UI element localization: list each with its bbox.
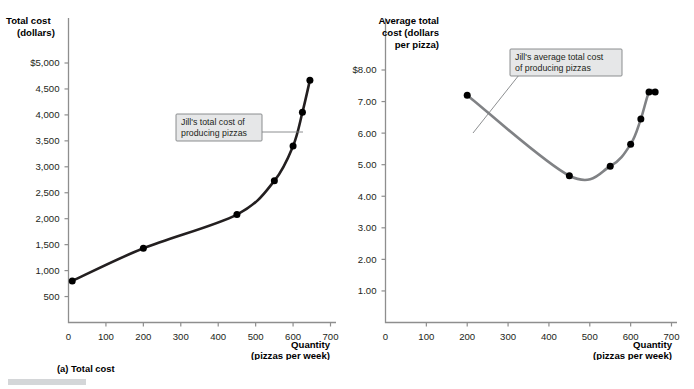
y-tick-label: 3,000	[35, 161, 59, 172]
x-axis-title-line-1-b: Quantity	[633, 339, 673, 350]
chart-average-total-cost: 1.002.003.004.005.006.007.00$8.00 010020…	[347, 0, 694, 360]
x-tick-label: 200	[135, 331, 151, 342]
x-axis-title-line-2-a: (pizzas per week)	[251, 350, 330, 360]
average-total-cost-curve	[467, 90, 655, 180]
data-point	[69, 277, 76, 284]
y-tick-label: 7.00	[358, 96, 377, 107]
y-tick-label: 2,500	[35, 187, 59, 198]
x-tick-label: 0	[66, 331, 71, 342]
y-axis-title-line-1-b: Average total	[379, 15, 439, 26]
average-total-cost-datapoints	[464, 89, 659, 180]
x-tick-label: 500	[248, 331, 264, 342]
panel-caption-a: (a) Total cost	[57, 363, 115, 374]
data-point	[464, 92, 471, 99]
y-tick-label: 4,500	[35, 83, 59, 94]
x-tick-label: 100	[98, 331, 114, 342]
x-tick-label: 0	[383, 331, 388, 342]
data-point	[271, 177, 278, 184]
y-tick-label: 500	[43, 291, 59, 302]
x-tick-label: 400	[541, 331, 557, 342]
callout-total-cost: Jill's total cost of producing pizzas	[176, 114, 303, 141]
x-tick-label: 300	[500, 331, 516, 342]
callout-line-2-a: producing pizzas	[181, 128, 248, 138]
data-point	[566, 172, 573, 179]
callout-line-1-a: Jill's total cost of	[181, 117, 245, 127]
y-tick-label: $5,000	[30, 57, 59, 68]
axis-lines-a	[69, 18, 337, 323]
y-tick-label: 3,500	[35, 135, 59, 146]
callout-line-1-b: Jill's average total cost	[515, 52, 604, 62]
footer-bar	[8, 379, 86, 385]
y-axis-title-line-2-a: (dollars)	[17, 27, 55, 38]
x-axis-title-line-2-b: (pizzas per week)	[593, 350, 672, 360]
x-tick-label: 300	[173, 331, 189, 342]
y-axis-title-line-1-a: Total cost	[6, 15, 51, 26]
data-point	[233, 211, 240, 218]
data-point	[637, 115, 644, 122]
data-point	[652, 89, 659, 96]
y-tick-label: 1,500	[35, 239, 59, 250]
y-tick-label: 1,000	[35, 265, 59, 276]
data-point	[627, 141, 634, 148]
data-point	[140, 245, 147, 252]
figure-root: 5001,0001,5002,0002,5003,0003,5004,0004,…	[0, 0, 694, 389]
y-tick-label: 2.00	[358, 254, 377, 265]
total-cost-datapoints	[69, 77, 314, 285]
x-tick-label: 500	[582, 331, 598, 342]
panel-total-cost: 5001,0001,5002,0002,5003,0003,5004,0004,…	[0, 0, 347, 389]
y-axis-title-line-2-b: cost (dollars	[382, 27, 439, 38]
data-point	[646, 89, 653, 96]
y-tick-label: $8.00	[352, 64, 376, 75]
data-point	[299, 109, 306, 116]
y-axis-title-line-3-b: per pizza)	[395, 39, 439, 50]
callout-line-2-b: of producing pizzas	[515, 63, 591, 73]
chart-total-cost: 5001,0001,5002,0002,5003,0003,5004,0004,…	[0, 0, 347, 360]
y-tick-label: 2,000	[35, 213, 59, 224]
callout-leader-b	[473, 75, 519, 133]
data-point	[607, 163, 614, 170]
y-tick-label: 3.00	[358, 222, 377, 233]
y-tick-label: 4,000	[35, 109, 59, 120]
y-tick-label: 4.00	[358, 191, 377, 202]
panel-average-total-cost: 1.002.003.004.005.006.007.00$8.00 010020…	[347, 0, 694, 389]
y-tick-label: 5.00	[358, 159, 377, 170]
data-point	[290, 143, 297, 150]
x-tick-label: 200	[459, 331, 475, 342]
y-tick-label: 1.00	[358, 285, 377, 296]
y-tick-label: 6.00	[358, 128, 377, 139]
x-axis-title-line-1-a: Quantity	[291, 339, 331, 350]
x-tick-label: 400	[210, 331, 226, 342]
data-point	[306, 77, 313, 84]
x-tick-label: 100	[418, 331, 434, 342]
y-axis-ticks-b: 1.002.003.004.005.006.007.00$8.00	[352, 64, 385, 296]
y-axis-ticks-a: 5001,0001,5002,0002,5003,0003,5004,0004,…	[30, 57, 68, 302]
